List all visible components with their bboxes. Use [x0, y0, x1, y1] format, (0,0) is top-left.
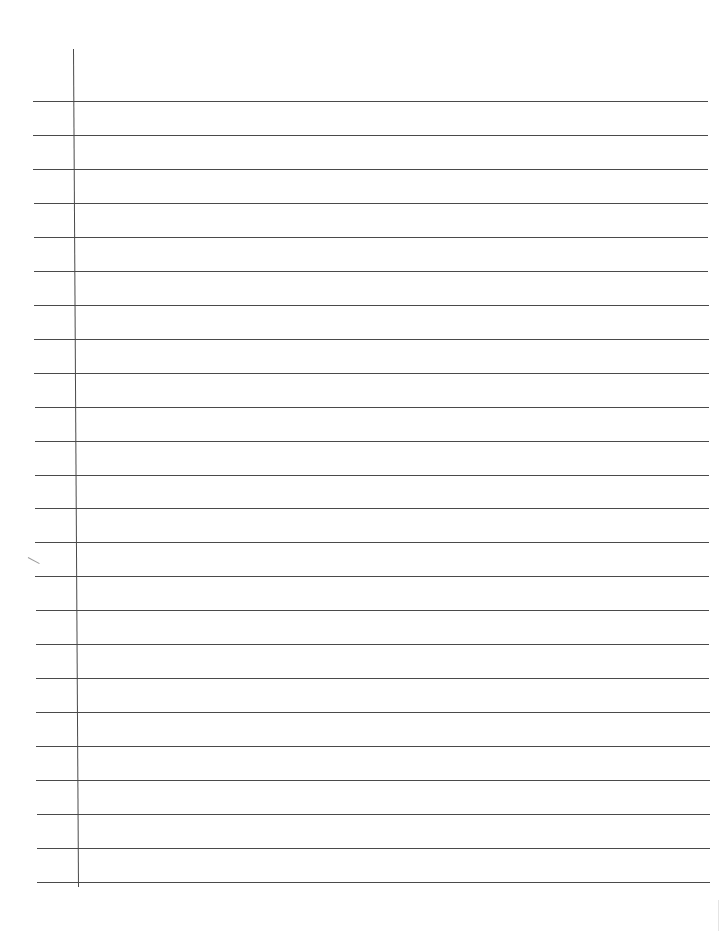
ruled-line [36, 644, 710, 645]
ruled-line [34, 271, 709, 272]
ruled-line [35, 475, 709, 476]
ruled-line [33, 135, 708, 136]
ruled-line [36, 746, 709, 747]
lined-paper-page [0, 0, 721, 931]
ruled-line [34, 203, 709, 204]
ruled-line [34, 339, 708, 340]
ruled-line [35, 441, 709, 442]
ruled-line [36, 678, 710, 679]
stray-mark [28, 557, 40, 564]
ruled-line [37, 814, 710, 815]
ruled-line [35, 542, 709, 543]
ruled-line [33, 169, 708, 170]
ruled-line [33, 101, 708, 102]
ruled-line [34, 373, 708, 374]
ruled-line [35, 508, 709, 509]
page-edge [718, 900, 719, 931]
ruled-line [36, 712, 709, 713]
ruled-line [36, 780, 709, 781]
margin-line [73, 49, 79, 887]
ruled-line [34, 237, 709, 238]
ruled-line [37, 848, 710, 849]
ruled-line [35, 576, 709, 577]
ruled-line [36, 610, 710, 611]
ruled-line [35, 407, 709, 408]
ruled-line [37, 882, 710, 883]
ruled-line [34, 305, 708, 306]
